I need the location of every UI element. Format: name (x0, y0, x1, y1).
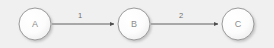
node-a[interactable]: A (19, 8, 51, 40)
diagram-canvas: 1 2 A B C (0, 0, 274, 48)
edge-label-a-b: 1 (78, 11, 82, 20)
node-a-label: A (32, 19, 38, 29)
node-c[interactable]: C (222, 8, 254, 40)
node-b[interactable]: B (118, 8, 150, 40)
edge-a-to-b: 1 (52, 11, 114, 24)
edge-b-to-c: 2 (151, 11, 218, 24)
graph-svg: 1 2 A B C (0, 0, 274, 48)
node-b-label: B (131, 19, 137, 29)
node-c-label: C (235, 19, 242, 29)
edge-label-b-c: 2 (179, 11, 183, 20)
